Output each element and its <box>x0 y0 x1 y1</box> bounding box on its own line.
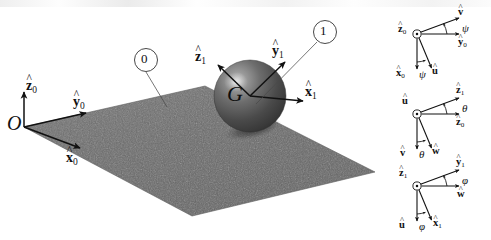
axis-label-y0: ^y0 <box>73 95 85 111</box>
origin-label: O <box>7 113 21 133</box>
yaw-angle-label-upper: ψ <box>462 23 469 34</box>
body-center-label: G <box>227 83 243 105</box>
roll-label-u: ^u <box>399 220 405 231</box>
roll-label-w: ^w <box>457 189 465 200</box>
scene-graphics <box>0 0 491 240</box>
roll-angle-label-upper: φ <box>462 175 468 186</box>
figure-canvas: O G ^z0 ^y0 ^x0 ^z1 ^y1 ^x1 0 1 ^z0 ^v ψ… <box>0 0 491 240</box>
pitch-center-label-u: ^u <box>402 96 408 107</box>
axis-label-z1: ^z1 <box>195 50 206 66</box>
roll-label-x1: ^x1 <box>433 218 442 230</box>
axis-label-x1: ^x1 <box>305 85 317 101</box>
axis-label-z0: ^z0 <box>26 79 37 95</box>
scan-artifact-band <box>0 0 491 7</box>
balloon-label-0: 0 <box>141 52 148 65</box>
pitch-angle-label-lower: θ <box>419 149 424 160</box>
pitch-label-z0: ^z0 <box>456 117 464 129</box>
axis-label-y1: ^y1 <box>272 44 284 60</box>
yaw-label-u: ^u <box>432 66 438 77</box>
balloon-label-1: 1 <box>320 24 327 37</box>
axis-label-x0: ^x0 <box>66 151 78 167</box>
pitch-angle-label-upper: θ <box>462 103 467 114</box>
yaw-label-v: ^v <box>458 7 463 18</box>
pitch-label-z1: ^z1 <box>456 85 464 97</box>
pitch-label-v: ^v <box>400 148 405 159</box>
yaw-center-label-z0: ^z0 <box>398 24 406 36</box>
roll-center-label-z1: ^z1 <box>399 168 407 180</box>
roll-label-y1: ^y1 <box>456 157 465 169</box>
pitch-label-w: ^w <box>432 146 440 157</box>
yaw-label-x0: ^x0 <box>396 68 405 80</box>
yaw-label-y0: ^y0 <box>458 37 467 49</box>
roll-angle-label-lower: φ <box>419 221 425 232</box>
yaw-angle-label-lower: ψ <box>419 69 426 80</box>
